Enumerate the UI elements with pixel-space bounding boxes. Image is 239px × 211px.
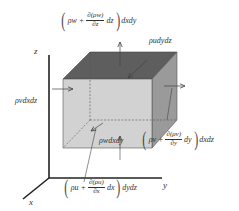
control-volume-diagram: z y x ( ρw + ∂(ρw) ∂z dz ) dxdy ρudydz ρ… <box>0 0 239 211</box>
right-out-flux-expression: ( ρv + ∂(ρv) ∂y dy ) dxdz <box>141 129 214 149</box>
left-in-flux-label: ρvdxdz <box>15 97 37 105</box>
y-axis-label: y <box>163 181 167 190</box>
x-axis-label: x <box>29 198 33 207</box>
front-out-flux-expression: ( ρu + ∂(ρu) ∂x dx ) dydz <box>63 177 137 197</box>
top-flux-expression: ( ρw + ∂(ρw) ∂z dz ) dxdy <box>60 10 136 30</box>
z-axis-label: z <box>34 47 38 56</box>
bottom-in-flux-label: ρwdxdy <box>99 137 123 145</box>
right-in-flux-label: ρudydz <box>149 37 172 45</box>
fraction: ∂(ρu) ∂x <box>88 179 105 195</box>
fraction: ∂(ρv) ∂y <box>165 131 182 147</box>
fraction: ∂(ρw) ∂z <box>86 12 104 28</box>
x-axis <box>23 178 49 199</box>
